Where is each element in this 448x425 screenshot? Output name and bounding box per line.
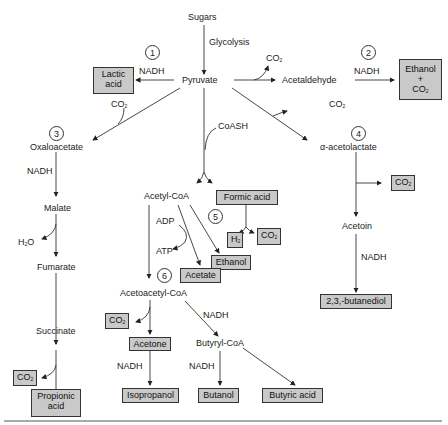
pathway-number-4: 4 bbox=[351, 126, 366, 141]
pathway-number-2: 2 bbox=[361, 45, 376, 60]
product-co2-acetone: CO2 bbox=[105, 313, 129, 329]
ethanol-co2-line-2: + bbox=[403, 74, 438, 84]
label-glycolysis: Glycolysis bbox=[209, 37, 250, 48]
product-isopropanol: Isopropanol bbox=[122, 388, 179, 403]
node-succinate: Succinate bbox=[36, 326, 76, 337]
propionic-line-1: Propionic bbox=[35, 391, 77, 401]
node-malate: Malate bbox=[44, 203, 71, 214]
ethanol-co2-line-1: Ethanol bbox=[403, 64, 438, 74]
product-ethanol-co2: Ethanol + CO2 bbox=[399, 59, 442, 100]
cofactor-nadh-2: NADH bbox=[354, 66, 380, 77]
product-butanediol: 2,3,-butanediol bbox=[320, 294, 392, 309]
node-sugars: Sugars bbox=[188, 12, 217, 23]
node-alpha-acetolactate: α-acetolactate bbox=[320, 142, 377, 153]
product-butyric-acid: Butyric acid bbox=[262, 388, 323, 403]
product-butanol: Butanol bbox=[198, 388, 239, 403]
pathway-number-3: 3 bbox=[49, 126, 64, 141]
pathway-number-1: 1 bbox=[145, 45, 160, 60]
pathway-number-5: 5 bbox=[208, 209, 223, 224]
lactic-line-2: acid bbox=[97, 79, 130, 89]
product-formic-acid: Formic acid bbox=[216, 190, 278, 205]
node-butyryl-coa: Butyryl-CoA bbox=[196, 338, 244, 349]
node-acetoin: Acetoin bbox=[342, 221, 372, 232]
cofactor-co2-acetaldehyde: CO2 bbox=[266, 53, 282, 66]
cofactor-nadh-3: NADH bbox=[27, 166, 53, 177]
cofactor-nadh-acetone: NADH bbox=[117, 361, 143, 372]
node-acetoacetyl-coa: Acetoacetyl-CoA bbox=[120, 288, 187, 299]
product-propionic-acid: Propionic acid bbox=[31, 389, 81, 417]
product-co2-succinate: CO2 bbox=[13, 370, 37, 386]
cofactor-coash: CoASH bbox=[218, 121, 248, 132]
product-acetate: Acetate bbox=[180, 268, 221, 283]
pathway-number-6: 6 bbox=[157, 268, 172, 283]
node-fumarate: Fumarate bbox=[37, 262, 76, 273]
cofactor-nadh-4: NADH bbox=[361, 252, 387, 263]
cofactor-nadh-1: NADH bbox=[139, 66, 165, 77]
cofactor-adp: ADP bbox=[156, 216, 175, 227]
cofactor-atp: ATP bbox=[156, 246, 173, 257]
node-h2o: H2O bbox=[18, 237, 34, 250]
cofactor-co2-acetolactate: CO2 bbox=[329, 99, 345, 112]
cofactor-nadh-butyryl: NADH bbox=[189, 361, 215, 372]
propionic-line-2: acid bbox=[35, 401, 77, 411]
node-acetaldehyde: Acetaldehyde bbox=[282, 75, 337, 86]
node-acetyl-coa: Acetyl-CoA bbox=[144, 191, 189, 202]
cofactor-nadh-6: NADH bbox=[203, 310, 229, 321]
product-acetone: Acetone bbox=[129, 337, 171, 351]
product-co2-acetoin: CO2 bbox=[391, 175, 415, 191]
node-oxaloacetate: Oxaloacetate bbox=[30, 142, 83, 153]
product-lactic-acid: Lactic acid bbox=[93, 67, 134, 94]
node-pyruvate: Pyruvate bbox=[182, 75, 218, 86]
lactic-line-1: Lactic bbox=[97, 69, 130, 79]
ethanol-co2-line-3: CO2 bbox=[403, 84, 438, 96]
cofactor-co2-oxaloacetate: CO2 bbox=[111, 99, 127, 112]
product-h2: H2 bbox=[227, 232, 243, 248]
product-co2-formic: CO2 bbox=[257, 228, 281, 245]
